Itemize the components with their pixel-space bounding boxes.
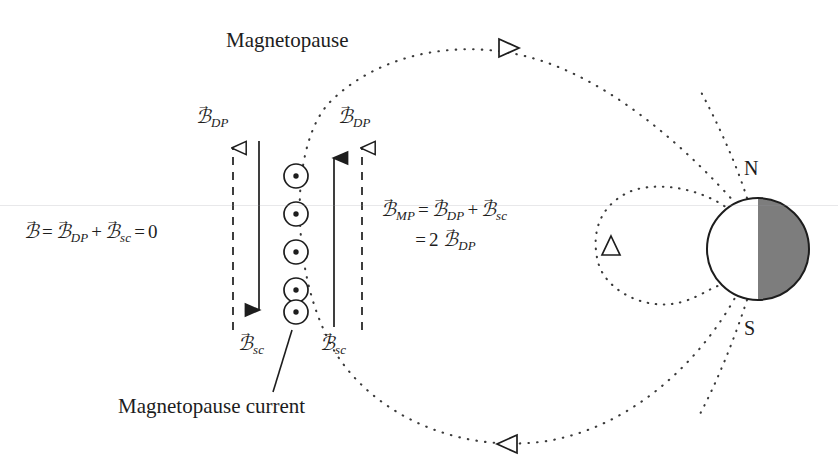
current-label-leader-line <box>273 330 292 392</box>
equals-sign: = <box>131 221 148 242</box>
b-script-symbol: ℬ <box>24 221 39 242</box>
equals-sign: = <box>412 229 429 250</box>
earth-night-side <box>758 198 809 300</box>
current-out-of-page-icon <box>284 278 308 302</box>
b-script-symbol: ℬ <box>432 199 447 220</box>
left-b-sc-label: →ℬsc <box>238 334 264 357</box>
b-script-symbol: ℬ <box>338 106 353 127</box>
equals-sign: = <box>415 199 432 220</box>
right-equation-line2: =2 →ℬDP <box>381 230 507 253</box>
subscript-sc: sc <box>253 342 264 357</box>
subscript-mp: MP <box>396 208 415 223</box>
north-polar-field-line <box>700 90 747 198</box>
magnetopause-label: Magnetopause <box>226 30 348 51</box>
plus-sign: + <box>88 221 105 242</box>
subscript-dp: DP <box>71 230 89 245</box>
magnetopause-arrowhead-bottom-icon <box>497 435 517 453</box>
magnetopause-current-label: Magnetopause current <box>118 396 305 417</box>
subscript-dp: DP <box>447 208 465 223</box>
current-out-of-page-icon <box>284 202 308 226</box>
subscript-sc: sc <box>120 230 131 245</box>
magnetosphere-diagram: Magnetopause Magnetopause current N S →ℬ… <box>0 0 838 473</box>
b-script-symbol: ℬ <box>238 333 253 354</box>
earth-day-side <box>707 198 758 300</box>
south-polar-field-line <box>700 300 747 414</box>
b-script-symbol: ℬ <box>443 229 458 250</box>
current-out-of-page-icon <box>284 240 308 264</box>
right-b-dp-label: →ℬDP <box>338 107 371 130</box>
earth <box>707 198 809 300</box>
b-script-symbol: ℬ <box>320 333 335 354</box>
dipole-fieldline-arrowhead-icon <box>602 236 620 255</box>
b-script-symbol: ℬ <box>381 199 396 220</box>
b-script-symbol: ℬ <box>481 199 496 220</box>
subscript-dp: DP <box>211 115 229 130</box>
b-script-symbol: ℬ <box>56 221 71 242</box>
current-sheet-symbols <box>284 164 308 324</box>
b-script-symbol: ℬ <box>196 106 211 127</box>
b-script-symbol: ℬ <box>105 221 120 242</box>
zero-value: 0 <box>148 221 158 242</box>
left-equation: →ℬ=→ℬDP+→ℬsc=0 <box>24 222 157 245</box>
equals-sign: = <box>39 221 56 242</box>
subscript-sc: sc <box>335 342 346 357</box>
right-b-sc-label: →ℬsc <box>320 334 346 357</box>
factor-two: 2 <box>429 229 439 250</box>
current-out-of-page-icon <box>284 164 308 188</box>
north-pole-label: N <box>744 158 758 178</box>
plus-sign: + <box>464 199 481 220</box>
left-b-dp-label: →ℬDP <box>196 107 229 130</box>
subscript-sc: sc <box>496 208 507 223</box>
south-pole-label: S <box>744 318 755 338</box>
subscript-dp: DP <box>353 115 371 130</box>
current-out-of-page-icon <box>284 300 308 324</box>
right-equation: →ℬMP=→ℬDP+→ℬsc =2 →ℬDP <box>381 200 507 252</box>
right-equation-line1: →ℬMP=→ℬDP+→ℬsc <box>381 199 507 220</box>
field-direction-markers <box>497 39 620 453</box>
subscript-dp: DP <box>458 237 476 252</box>
